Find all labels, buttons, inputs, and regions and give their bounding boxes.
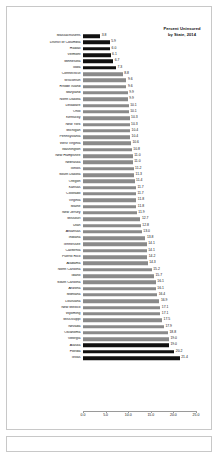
bar — [83, 325, 164, 329]
bar — [83, 281, 156, 285]
bar-category-label: Mississippi — [7, 318, 83, 322]
bar-value-label: 6.7 — [113, 60, 119, 63]
bar-value-label: 16.1 — [156, 287, 164, 290]
bar-category-label: Montana — [7, 293, 83, 297]
bar-category-label: Connecticut — [7, 72, 83, 76]
chart-panel: Percent Uninsured by State, 2014 Massach… — [6, 6, 212, 430]
bar — [83, 186, 136, 190]
bar — [83, 268, 152, 272]
bar-value-label: 18.8 — [168, 331, 176, 334]
bar — [83, 350, 174, 354]
bar-category-label: Georgia — [7, 337, 83, 341]
bar-row: Texas21.4 — [7, 355, 213, 361]
bar-value-label: 9.9 — [128, 91, 134, 94]
bar — [83, 224, 141, 228]
bar-value-label: 14.1 — [147, 249, 155, 252]
bar-value-label: 11.2 — [134, 167, 142, 170]
bar-value-label: 10.3 — [130, 117, 138, 120]
bar — [83, 230, 142, 234]
x-axis: 0.05.010.015.020.025.0 — [83, 411, 196, 427]
x-axis-tick-label: 20.0 — [170, 414, 177, 418]
bar-value-label: 10.6 — [131, 142, 139, 145]
bar-value-label: 10.1 — [129, 110, 137, 113]
bar-value-label: 15.7 — [154, 274, 162, 277]
bar-category-label: Utah — [7, 224, 83, 228]
bar-category-label: Arizona — [7, 287, 83, 291]
x-axis-line — [83, 411, 196, 412]
bar — [83, 91, 128, 95]
bar — [83, 142, 131, 146]
bar — [83, 173, 134, 177]
bar-value-label: 19.0 — [169, 337, 177, 340]
bar-category-label: Indiana — [7, 236, 83, 240]
lower-panel — [6, 436, 212, 452]
bar-value-label: 16.4 — [157, 293, 165, 296]
x-axis-tick-label: 25.0 — [193, 414, 200, 418]
bar — [83, 47, 110, 51]
bar-value-label: 19.0 — [169, 344, 177, 347]
bar-category-label: District of Columbia — [7, 41, 83, 45]
bar-value-label: 10.4 — [130, 135, 138, 138]
bar-category-label: Idaho — [7, 274, 83, 278]
bar — [83, 331, 168, 335]
bar-value-label: 11.8 — [136, 205, 144, 208]
bar — [83, 300, 159, 304]
bar-category-label: Wyoming — [7, 312, 83, 316]
bar — [83, 192, 136, 196]
bar-category-label: Alaska — [7, 344, 83, 348]
bar-value-label: 17.1 — [160, 312, 168, 315]
screenshot-root: Percent Uninsured by State, 2014 Massach… — [0, 0, 218, 458]
bar — [83, 98, 128, 102]
bar — [83, 148, 132, 152]
bar — [83, 135, 130, 139]
bar-value-label: 14.1 — [147, 243, 155, 246]
bar — [83, 274, 154, 278]
bar — [83, 287, 156, 291]
bar-value-label: 17.5 — [162, 319, 170, 322]
bar-category-label: Kentucky — [7, 116, 83, 120]
bar-category-label: Kansas — [7, 186, 83, 190]
bar-category-label: South Carolina — [7, 281, 83, 285]
bar — [83, 199, 136, 203]
bar — [83, 72, 123, 76]
bar-value-label: 3.8 — [100, 34, 106, 37]
bar — [83, 161, 133, 165]
bar-category-label: North Dakota — [7, 98, 83, 102]
bar-category-label: Oregon — [7, 180, 83, 184]
bar — [83, 255, 147, 259]
bar — [83, 337, 169, 341]
bar — [83, 312, 160, 316]
bar-category-label: Michigan — [7, 129, 83, 133]
bar-value-label: 7.3 — [116, 66, 122, 69]
bar-category-label: West Virginia — [7, 142, 83, 146]
x-axis-tick-label: 10.0 — [125, 414, 132, 418]
bar-category-label: Texas — [7, 356, 83, 360]
bar-value-label: 20.2 — [174, 350, 182, 353]
bar-value-label: 11.3 — [134, 173, 142, 176]
bar-category-label: California — [7, 249, 83, 253]
bar-category-label: Wisconsin — [7, 79, 83, 83]
bar-category-label: North Carolina — [7, 268, 83, 272]
bar-category-label: Rhode Island — [7, 85, 83, 89]
bar-value-label: 9.6 — [126, 85, 132, 88]
bar-value-label: 14.2 — [147, 255, 155, 258]
bar — [83, 34, 100, 38]
bar — [83, 53, 111, 57]
bar-category-label: Delaware — [7, 104, 83, 108]
bar-value-label: 16.1 — [156, 281, 164, 284]
bar-value-label: 12.8 — [141, 224, 149, 227]
uninsured-by-state-bar-chart: Percent Uninsured by State, 2014 Massach… — [7, 7, 213, 431]
bar — [83, 318, 162, 322]
bar — [83, 180, 135, 184]
bar — [83, 167, 134, 171]
bar-category-label: Louisiana — [7, 300, 83, 304]
bar-value-label: 11.7 — [136, 192, 144, 195]
bar-value-label: 6.0 — [110, 47, 116, 50]
bar — [83, 110, 129, 114]
bar-category-label: Vermont — [7, 53, 83, 57]
bar-category-label: Puerto Rico — [7, 255, 83, 259]
x-axis-tick-label: 0.0 — [81, 414, 86, 418]
bar — [83, 104, 129, 108]
bar-category-label: New Mexico — [7, 306, 83, 310]
bar-category-label: Maine — [7, 205, 83, 209]
